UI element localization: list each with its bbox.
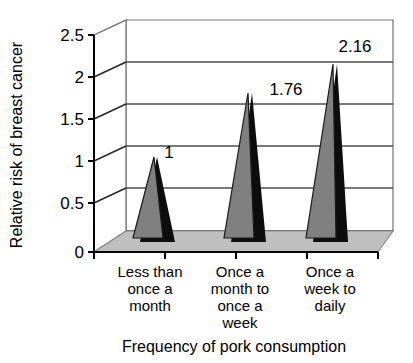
category-3-line-1: Once a — [306, 263, 355, 280]
category-3-line-3: daily — [315, 297, 346, 314]
y-axis — [88, 35, 94, 252]
category-1-line-1: Less than — [117, 263, 182, 280]
x-category-labels: Less than once a month Once a month to o… — [117, 263, 355, 331]
y-tick-label-1.5: 1.5 — [60, 110, 84, 129]
data-label-1: 1 — [164, 143, 173, 162]
category-label-3: Once a week to daily — [303, 263, 356, 314]
category-label-1: Less than once a month — [117, 263, 182, 314]
category-1-line-3: month — [129, 297, 171, 314]
data-label-3: 2.16 — [338, 37, 371, 56]
y-tick-label-1: 1 — [75, 152, 84, 171]
y-tick-label-2: 2 — [75, 68, 84, 87]
chart-container: 2.5 2 1.5 1 0.5 0 — [0, 0, 413, 363]
data-label-2: 1.76 — [269, 80, 302, 99]
category-label-2: Once a month to once a week — [211, 263, 269, 331]
relative-risk-bar-chart: 2.5 2 1.5 1 0.5 0 — [0, 0, 413, 363]
y-tick-labels: 2.5 2 1.5 1 0.5 0 — [60, 26, 84, 262]
y-tick-label-0: 0 — [75, 243, 84, 262]
category-2-line-2: month to — [211, 280, 269, 297]
category-2-line-3: once a — [217, 297, 263, 314]
y-axis-title: Relative risk of breast cancer — [8, 41, 25, 248]
y-tick-label-2.5: 2.5 — [60, 26, 84, 45]
category-2-line-4: week — [221, 314, 258, 331]
x-axis — [94, 252, 378, 259]
category-3-line-2: week to — [303, 280, 356, 297]
left-wall-panel — [94, 20, 126, 252]
plot-left-wall — [94, 20, 126, 252]
x-axis-title: Frequency of pork consumption — [122, 338, 346, 355]
category-2-line-1: Once a — [216, 263, 265, 280]
category-1-line-2: once a — [127, 280, 173, 297]
y-tick-label-0.5: 0.5 — [60, 194, 84, 213]
